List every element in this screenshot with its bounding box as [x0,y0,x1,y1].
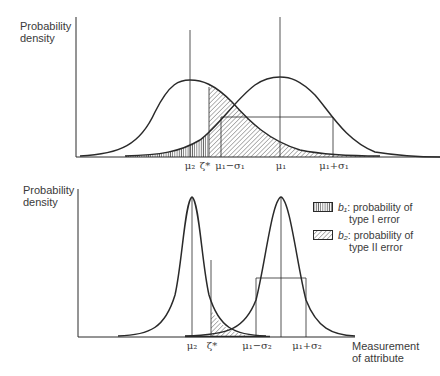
top-ylabel: Probability density [20,20,71,44]
bottom-tick-mu1-minus-sigma: μ₁−σ₂ [242,340,272,351]
vertical-hatch-swatch-icon [313,202,333,212]
legend-b2-text: : probability of [348,229,413,241]
top-tick-mu1: μ₁ [276,160,287,171]
top-tick-mu1-plus-sigma: μ₁+σ₁ [319,160,349,171]
top-panel [76,17,440,157]
legend-b2-text-line2: type II error [338,241,413,253]
legend-b1-symbol: b₁ [338,201,347,213]
bottom-xlabel-line1: Measurement [352,340,419,352]
bottom-ylabel: Probability density [23,184,74,208]
top-tick-mu2: μ₂ [185,160,196,171]
legend-b2-symbol: b₂ [338,229,348,241]
top-tick-zeta: ζ* [200,160,210,171]
bottom-ylabel-line2: density [23,196,74,208]
bottom-tick-zeta: ζ* [207,340,217,351]
top-tick-mu1-minus-sigma: μ₁−σ₁ [215,160,245,171]
top-ylabel-line2: density [20,32,71,44]
bottom-xlabel: Measurement of attribute [352,340,419,364]
bottom-b2-region [211,250,271,337]
legend-b1-text-line2: type I error [338,213,413,225]
legend-item-b1: b₁: probability of type I error [313,201,413,225]
top-b1-region [125,100,209,157]
bottom-tick-mu1-plus-sigma: μ₁+σ₂ [292,340,322,351]
top-ylabel-line1: Probability [20,20,71,32]
diagonal-hatch-swatch-icon [313,230,333,240]
bottom-tick-mu2: μ₂ [187,340,198,351]
top-b2-region [209,70,389,157]
legend-item-b2: b₂: probability of type II error [313,229,413,253]
bottom-ylabel-line1: Probability [23,184,74,196]
bottom-xlabel-line2: of attribute [352,352,419,364]
legend-b1-text: : probability of [347,201,412,213]
